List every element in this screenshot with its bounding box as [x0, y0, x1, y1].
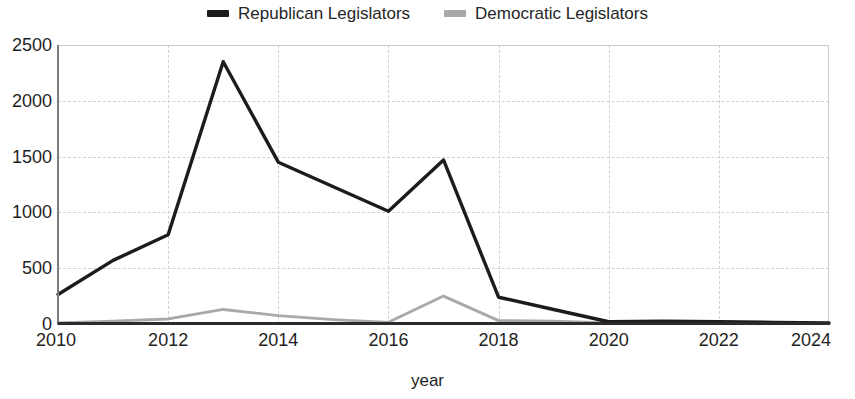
series-line-republican [58, 62, 829, 323]
x-axis-tick-labels: 20102012201420162018202020222024 [0, 331, 855, 355]
x-axis-tick-label: 2020 [589, 331, 629, 349]
y-axis-tick-label: 2000 [0, 92, 52, 110]
x-axis-tick-label: 2010 [36, 331, 76, 349]
y-axis-tick-label: 2500 [0, 36, 52, 54]
y-axis-tick-label: 1000 [0, 203, 52, 221]
x-axis-tick-label: 2016 [368, 331, 408, 349]
series-line-democratic [58, 296, 829, 323]
x-axis-tick-label: 2022 [699, 331, 739, 349]
legend-swatch-republican-icon [207, 10, 229, 17]
legend-item-republican[interactable]: Republican Legislators [207, 5, 410, 22]
legend-item-democratic[interactable]: Democratic Legislators [444, 5, 648, 22]
y-axis-tick-labels: 05001000150020002500 [0, 45, 52, 325]
y-axis-tick-label: 1500 [0, 148, 52, 166]
legend-label-democratic: Democratic Legislators [475, 5, 648, 22]
series-layer [58, 45, 829, 324]
line-chart: Republican Legislators Democratic Legisl… [0, 0, 855, 399]
x-axis-title: year [0, 372, 855, 389]
chart-legend: Republican Legislators Democratic Legisl… [0, 2, 855, 24]
x-axis-tick-label: 2018 [479, 331, 519, 349]
x-axis-line [58, 322, 830, 325]
x-axis-tick-label: 2014 [258, 331, 298, 349]
legend-label-republican: Republican Legislators [238, 5, 410, 22]
y-axis-tick-label: 500 [0, 259, 52, 277]
x-axis-tick-label: 2024 [791, 331, 831, 349]
y-axis-line [57, 45, 59, 325]
legend-swatch-democratic-icon [444, 10, 466, 17]
x-axis-tick-label: 2012 [148, 331, 188, 349]
plot-area [58, 45, 829, 324]
